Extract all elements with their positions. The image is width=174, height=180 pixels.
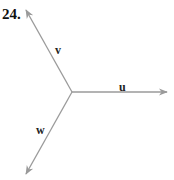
vector-v-arrow — [26, 10, 72, 92]
vector-w-arrow — [26, 92, 72, 174]
vector-u-label: u — [119, 80, 126, 94]
vector-diagram: u v w — [0, 0, 174, 180]
vector-v-label: v — [55, 43, 61, 57]
vector-w-label: w — [36, 123, 45, 137]
